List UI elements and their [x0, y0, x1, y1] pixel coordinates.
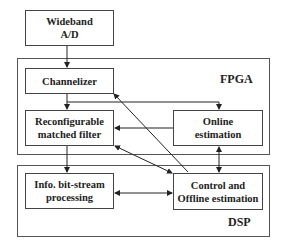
connection-arrows — [0, 0, 285, 248]
